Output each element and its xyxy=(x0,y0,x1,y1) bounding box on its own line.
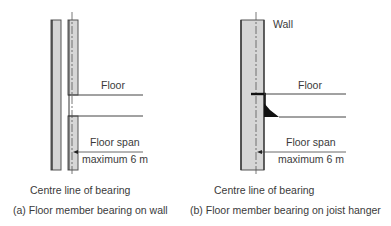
diagram-a: Floor Floor span maximum 6 m Centre line… xyxy=(13,12,168,216)
floor-label-b: Floor xyxy=(298,79,322,91)
wall-label-b: Wall xyxy=(273,18,293,30)
diagram-canvas: Floor Floor span maximum 6 m Centre line… xyxy=(0,0,391,226)
caption-b: (b) Floor member bearing on joist hanger xyxy=(190,204,381,216)
caption-a: (a) Floor member bearing on wall xyxy=(13,204,168,216)
span-label-a-line2: maximum 6 m xyxy=(82,153,148,165)
diagram-b: Wall Floor Floor span maximum 6 m Centre… xyxy=(190,12,381,216)
span-label-b-line1: Floor span xyxy=(286,136,336,148)
centre-line-label-a: Centre line of bearing xyxy=(30,184,131,196)
joist-hanger-seat xyxy=(264,103,279,117)
floor-label-a: Floor xyxy=(101,79,125,91)
span-label-a-line1: Floor span xyxy=(90,136,140,148)
centre-line-label-b: Centre line of bearing xyxy=(214,184,315,196)
span-label-b-line2: maximum 6 m xyxy=(278,153,344,165)
